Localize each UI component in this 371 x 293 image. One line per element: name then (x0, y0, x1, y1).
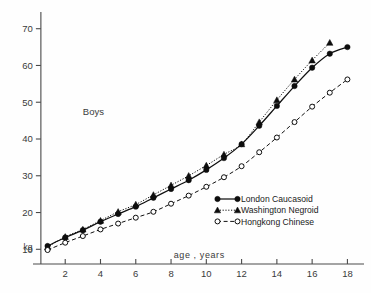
y-tick-label: 70 (22, 23, 33, 34)
x-tick-label: 18 (342, 268, 353, 279)
x-axis-title: age , years (174, 250, 225, 260)
x-tick-label: 6 (133, 268, 138, 279)
x-tick-label: 12 (236, 268, 247, 279)
legend-item: London Caucasoid (215, 194, 313, 204)
x-tick-label: 2 (63, 268, 68, 279)
x-axis-tick-labels: 24681012141618 (63, 268, 353, 279)
legend-item: Hongkong Chinese (215, 217, 314, 227)
y-tick-label: 60 (22, 60, 33, 71)
legend-item: Washington Negroid (214, 205, 318, 215)
y-axis-tick-labels: 10203040506070 (22, 23, 33, 255)
x-tick-label: 8 (168, 268, 173, 279)
y-tick-label: 50 (22, 97, 33, 108)
y-tick-label: 40 (22, 133, 33, 144)
panel-label-boys: Boys (83, 106, 104, 117)
y-axis-ticks (36, 29, 41, 250)
chart-legend: London CaucasoidWashington NegroidHongko… (214, 194, 318, 226)
y-axis-unit-label: kg (23, 242, 32, 252)
x-tick-label: 4 (98, 268, 103, 279)
legend-label: London Caucasoid (241, 194, 313, 204)
x-tick-label: 14 (272, 268, 283, 279)
legend-label: Hongkong Chinese (241, 217, 314, 227)
legend-label: Washington Negroid (241, 205, 319, 215)
chart-figure: 10203040506070 24681012141618 London Cau… (0, 0, 371, 293)
growth-chart-plot: 10203040506070 24681012141618 London Cau… (0, 0, 371, 293)
y-tick-label: 30 (22, 170, 33, 181)
y-tick-label: 20 (22, 207, 33, 218)
x-tick-label: 10 (201, 268, 212, 279)
x-tick-label: 16 (307, 268, 318, 279)
